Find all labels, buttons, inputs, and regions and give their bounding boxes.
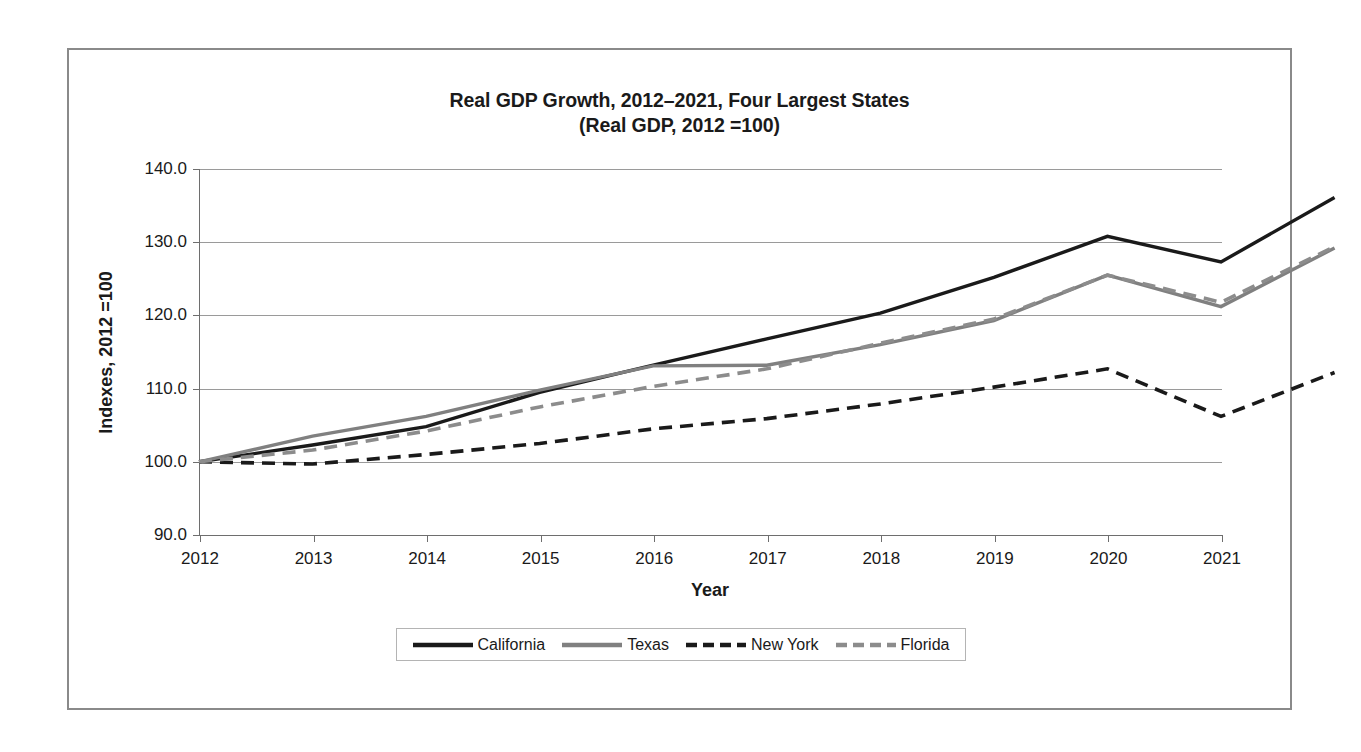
chart-legend: CaliforniaTexasNew YorkFlorida <box>396 628 966 661</box>
legend-item-california[interactable]: California <box>413 636 546 654</box>
x-tick-label: 2016 <box>635 549 673 569</box>
x-tick-2014 <box>427 535 428 542</box>
x-tick-2020 <box>1108 535 1109 542</box>
legend-item-texas[interactable]: Texas <box>562 636 669 654</box>
x-tick-label: 2020 <box>1090 549 1128 569</box>
y-tick-90 <box>193 535 200 536</box>
y-tick-label: 140.0 <box>144 159 187 179</box>
x-tick-label: 2021 <box>1203 549 1241 569</box>
y-tick-label: 100.0 <box>144 452 187 472</box>
chart-frame: Real GDP Growth, 2012–2021, Four Largest… <box>67 48 1292 710</box>
chart-title-line1: Real GDP Growth, 2012–2021, Four Largest… <box>450 89 910 111</box>
series-line-california <box>199 198 1335 462</box>
legend-swatch-florida-icon <box>836 640 896 650</box>
chart-canvas: Real GDP Growth, 2012–2021, Four Largest… <box>69 50 1290 708</box>
x-tick-label: 2017 <box>749 549 787 569</box>
legend-label: Florida <box>901 636 950 654</box>
x-tick-2016 <box>654 535 655 542</box>
x-tick-label: 2014 <box>408 549 446 569</box>
x-axis-title: Year <box>199 580 1221 601</box>
y-tick-label: 130.0 <box>144 232 187 252</box>
legend-label: Texas <box>627 636 669 654</box>
series-line-new-york <box>199 369 1335 464</box>
chart-subtitle: (Real GDP, 2012 =100) <box>69 113 1290 138</box>
x-tick-label: 2019 <box>976 549 1014 569</box>
chart-title: Real GDP Growth, 2012–2021, Four Largest… <box>69 88 1290 138</box>
legend-item-new-york[interactable]: New York <box>686 636 819 654</box>
legend-swatch-california-icon <box>413 640 473 650</box>
series-line-florida <box>199 247 1335 462</box>
x-tick-label: 2015 <box>522 549 560 569</box>
y-tick-label: 110.0 <box>146 379 187 399</box>
series-layer <box>199 169 1221 535</box>
x-tick-2019 <box>995 535 996 542</box>
legend-swatch-texas-icon <box>562 640 622 650</box>
x-tick-label: 2012 <box>181 549 219 569</box>
x-tick-label: 2018 <box>862 549 900 569</box>
y-axis-title: Indexes, 2012 =100 <box>93 169 119 535</box>
series-line-texas <box>199 248 1335 462</box>
legend-item-florida[interactable]: Florida <box>836 636 950 654</box>
y-tick-label: 120.0 <box>144 305 187 325</box>
x-tick-2018 <box>881 535 882 542</box>
x-tick-2015 <box>541 535 542 542</box>
x-tick-2012 <box>200 535 201 542</box>
legend-label: New York <box>751 636 819 654</box>
x-tick-2021 <box>1222 535 1223 542</box>
y-tick-label: 90.0 <box>154 525 187 545</box>
legend-swatch-new-york-icon <box>686 640 746 650</box>
x-tick-label: 2013 <box>295 549 333 569</box>
legend-label: California <box>478 636 546 654</box>
x-tick-2017 <box>768 535 769 542</box>
x-tick-2013 <box>314 535 315 542</box>
